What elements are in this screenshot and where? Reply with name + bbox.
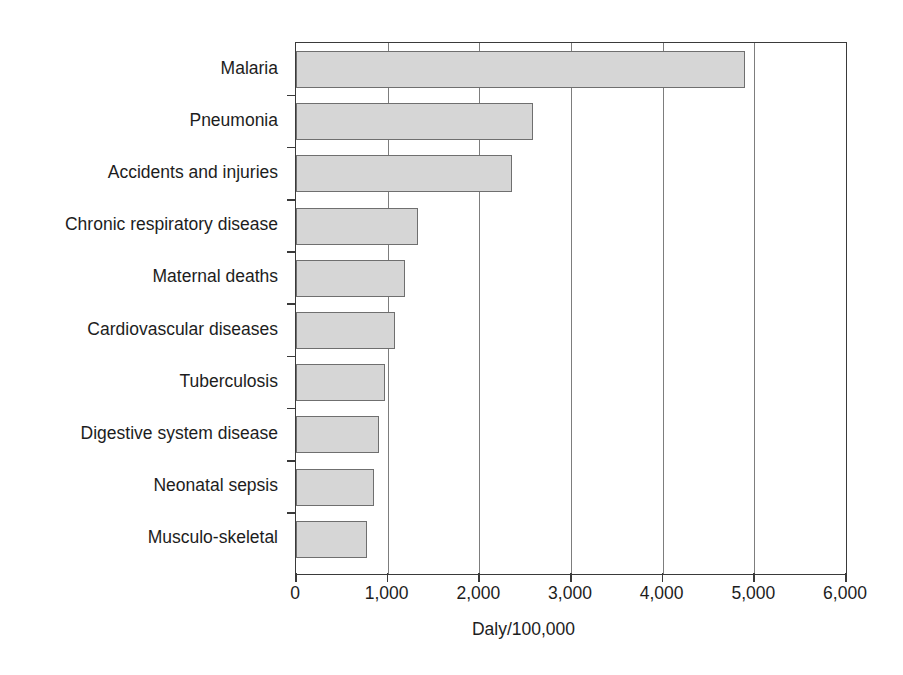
y-axis-tick xyxy=(287,460,296,462)
x-axis-tick-label: 5,000 xyxy=(731,585,775,603)
bar xyxy=(296,416,379,453)
x-axis-tick xyxy=(753,573,755,582)
y-axis-tick xyxy=(287,147,296,149)
bar xyxy=(296,51,745,88)
bar xyxy=(296,208,418,245)
category-label: Chronic respiratory disease xyxy=(0,216,278,234)
category-label: Accidents and injuries xyxy=(0,164,278,182)
y-axis-tick xyxy=(287,251,296,253)
y-axis-tick xyxy=(287,356,296,358)
y-axis-tick xyxy=(287,95,296,97)
x-axis-tick-label: 0 xyxy=(290,585,300,603)
category-label: Musculo-skeletal xyxy=(0,529,278,547)
y-axis-tick xyxy=(287,408,296,410)
category-label: Tuberculosis xyxy=(0,373,278,391)
x-axis-tick xyxy=(387,573,389,582)
x-axis-tick-label: 2,000 xyxy=(456,585,500,603)
category-label: Digestive system disease xyxy=(0,425,278,443)
category-label: Neonatal sepsis xyxy=(0,477,278,495)
bar xyxy=(296,103,533,140)
category-axis: MalariaPneumoniaAccidents and injuriesCh… xyxy=(0,42,288,573)
x-axis-tick-label: 6,000 xyxy=(823,585,867,603)
category-label: Cardiovascular diseases xyxy=(0,321,278,339)
x-axis-tick xyxy=(662,573,664,582)
category-label: Maternal deaths xyxy=(0,268,278,286)
x-axis-tick xyxy=(295,573,297,582)
bar xyxy=(296,469,374,506)
bar-chart-figure: MalariaPneumoniaAccidents and injuriesCh… xyxy=(0,0,903,675)
x-axis-tick xyxy=(570,573,572,582)
x-axis-tick-labels: 01,0002,0003,0004,0005,0006,000 xyxy=(0,585,903,613)
bar xyxy=(296,312,395,349)
x-axis-title: Daly/100,000 xyxy=(0,619,903,640)
x-axis-tick-label: 4,000 xyxy=(640,585,684,603)
x-axis-tick-label: 1,000 xyxy=(365,585,409,603)
y-axis-tick xyxy=(287,199,296,201)
bar xyxy=(296,260,405,297)
bar xyxy=(296,521,367,558)
category-label: Pneumonia xyxy=(0,112,278,130)
x-axis-title-text: Daly/100,000 xyxy=(472,619,575,639)
x-axis-ticks xyxy=(295,573,847,583)
plot-area xyxy=(295,42,847,575)
bar-series xyxy=(296,43,846,574)
bar xyxy=(296,364,385,401)
bar xyxy=(296,155,512,192)
y-axis-tick xyxy=(287,303,296,305)
category-label: Malaria xyxy=(0,60,278,78)
y-axis-tick xyxy=(287,512,296,514)
x-axis-tick-label: 3,000 xyxy=(548,585,592,603)
x-axis-tick xyxy=(478,573,480,582)
x-axis-tick xyxy=(845,573,847,582)
